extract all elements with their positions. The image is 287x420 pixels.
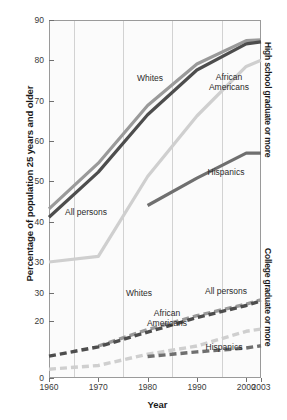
- annotation-lower-whites: Whites: [126, 288, 152, 298]
- annotation-line: Whites: [137, 73, 163, 83]
- annotation-line: African: [147, 308, 187, 318]
- series-lines: [0, 0, 287, 420]
- annotation-line: Hispanics: [206, 342, 243, 352]
- annotation-line: African: [209, 72, 249, 82]
- series-high-school-graduate-or-more-all-persons: [49, 42, 261, 217]
- annotation-line: Americans: [147, 318, 187, 328]
- annotation-line: Hispanics: [208, 167, 245, 177]
- annotation-upper-hispanics: Hispanics: [208, 167, 245, 177]
- annotation-lower-hispanics: Hispanics: [206, 342, 243, 352]
- annotation-upper-african-americans: AfricanAmericans: [209, 72, 249, 92]
- annotation-lower-all-persons: All persons: [205, 286, 247, 296]
- series-college-graduate-or-more-hispanics: [148, 346, 261, 357]
- series-high-school-graduate-or-more-hispanics: [148, 153, 261, 205]
- annotation-line: Americans: [209, 82, 249, 92]
- x-axis-title: Year: [45, 399, 270, 410]
- annotation-lower-african-americans: AfricanAmericans: [147, 308, 187, 328]
- right-label-high-school: High school graduate or more: [263, 42, 273, 202]
- annotation-line: All persons: [205, 286, 247, 296]
- annotation-line: All persons: [65, 207, 107, 217]
- chart-container: Percentage of population 25 years and ol…: [0, 0, 287, 420]
- annotation-upper-all-persons: All persons: [65, 207, 107, 217]
- annotation-line: Whites: [126, 288, 152, 298]
- series-high-school-graduate-or-more-whites: [49, 40, 261, 209]
- annotation-upper-whites: Whites: [137, 73, 163, 83]
- right-label-college: College graduate or more: [263, 248, 273, 378]
